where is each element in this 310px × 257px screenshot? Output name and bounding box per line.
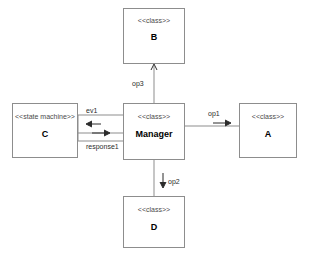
edge-op3: [151, 64, 157, 103]
edge-op3-arrowhead: [151, 64, 157, 70]
uml-node-d[interactable]: <<class>> D: [123, 196, 185, 248]
edge-label-op3: op3: [132, 80, 144, 87]
uml-node-a-stereotype: <<class>>: [252, 113, 284, 120]
edge-response1: [78, 130, 123, 141]
edge-op2: [154, 160, 166, 196]
uml-node-c-name: C: [42, 130, 49, 139]
uml-diagram-canvas: <<class>> B <<class>> Manager <<state ma…: [0, 0, 310, 257]
edge-label-op2: op2: [168, 178, 180, 185]
uml-node-manager[interactable]: <<class>> Manager: [123, 103, 185, 160]
uml-node-a[interactable]: <<class>> A: [239, 103, 297, 158]
uml-node-d-name: D: [151, 223, 158, 232]
edge-label-ev1: ev1: [86, 107, 97, 114]
edge-op2-arrowhead: [160, 182, 166, 188]
edge-label-response1: response1: [86, 143, 119, 150]
uml-node-d-stereotype: <<class>>: [138, 206, 170, 213]
uml-node-manager-stereotype: <<class>>: [138, 113, 170, 120]
uml-node-c[interactable]: <<state machine>> C: [12, 103, 78, 158]
edge-op1: [185, 120, 239, 126]
uml-node-b[interactable]: <<class>> B: [123, 8, 185, 64]
edge-response1-arrowhead: [104, 130, 110, 136]
uml-node-b-name: B: [151, 33, 158, 42]
edge-op1-arrowhead: [225, 120, 231, 126]
uml-node-a-name: A: [265, 130, 272, 139]
uml-node-c-stereotype: <<state machine>>: [15, 113, 75, 120]
uml-node-manager-name: Manager: [135, 130, 172, 139]
edge-ev1: [78, 115, 123, 127]
edge-ev1-arrowhead: [86, 121, 92, 127]
uml-node-b-stereotype: <<class>>: [138, 17, 170, 24]
edge-label-op1: op1: [208, 110, 220, 117]
